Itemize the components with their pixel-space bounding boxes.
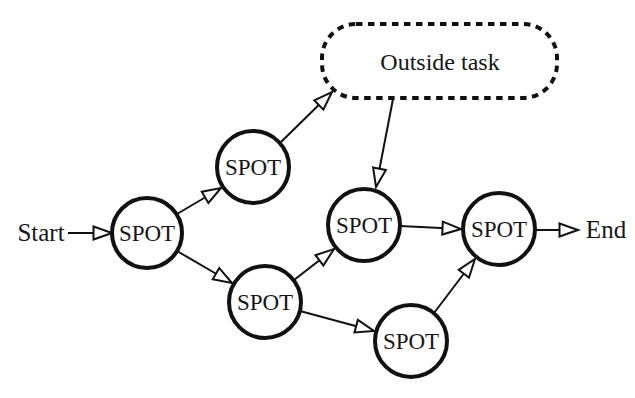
spot-node-2: SPOT	[217, 131, 289, 203]
spot-node-5-label: SPOT	[383, 329, 439, 354]
edge-spot4-spot6	[400, 226, 461, 229]
edge-outside-task-spot4	[376, 99, 393, 187]
start-label: Start	[17, 219, 64, 246]
spot-node-3: SPOT	[229, 266, 301, 338]
edge-spot2-outside-task	[281, 92, 332, 142]
spot-node-1-label: SPOT	[119, 221, 175, 246]
edge-spot1-spot2	[177, 188, 221, 214]
spot-node-1: SPOT	[112, 198, 182, 268]
spot-node-4-label: SPOT	[336, 213, 392, 238]
flow-diagram: Outside task SPOT SPOT SPOT SPOT SPOT SP…	[0, 0, 635, 398]
edge-spot3-spot4	[294, 249, 334, 280]
spot-node-6-label: SPOT	[471, 217, 527, 242]
diagram-canvas: Outside task SPOT SPOT SPOT SPOT SPOT SP…	[0, 0, 635, 398]
edge-spot5-spot6	[434, 259, 475, 313]
outside-task-node: Outside task	[322, 24, 557, 98]
spot-node-2-label: SPOT	[225, 155, 281, 180]
end-label: End	[586, 216, 627, 243]
spot-node-6: SPOT	[463, 193, 535, 265]
outside-task-label: Outside task	[380, 49, 499, 75]
spot-node-5: SPOT	[375, 305, 447, 377]
spot-node-4: SPOT	[328, 189, 400, 261]
edge-spot1-spot3	[177, 251, 232, 283]
spot-node-3-label: SPOT	[237, 290, 293, 315]
edge-spot3-spot5	[300, 311, 374, 331]
